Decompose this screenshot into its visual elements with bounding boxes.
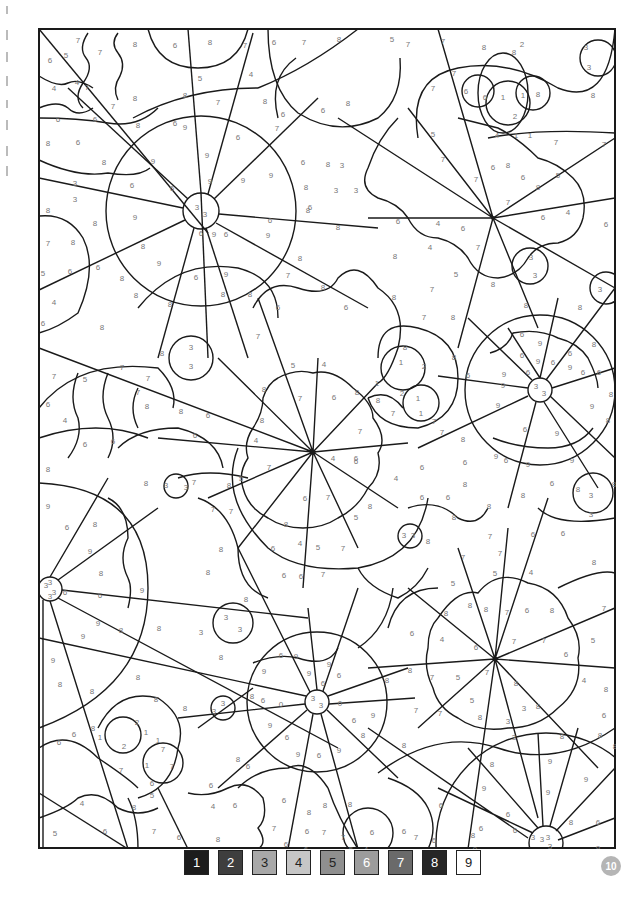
region-number: 4 [249, 70, 254, 79]
color-swatch-8[interactable]: 8 [422, 850, 447, 875]
region-number: 8 [46, 465, 51, 474]
region-number: 4 [566, 208, 571, 217]
region-number: 4 [75, 78, 80, 87]
region-number: 6 [98, 591, 103, 600]
region-number: 7 [286, 271, 291, 280]
region-number: 6 [103, 827, 108, 836]
region-number: 7 [414, 706, 419, 715]
region-number: 6 [352, 716, 357, 725]
region-number: 3 [411, 531, 416, 540]
color-swatch-6[interactable]: 6 [354, 850, 379, 875]
region-number: 8 [512, 48, 517, 57]
region-number: 4 [298, 539, 303, 548]
region-number: 9 [140, 586, 145, 595]
region-number: 8 [506, 161, 511, 170]
region-number: 6 [305, 827, 310, 836]
color-swatch-9[interactable]: 9 [456, 850, 481, 875]
region-number: 7 [136, 388, 141, 397]
region-number: 6 [72, 730, 77, 739]
region-number: 8 [120, 274, 125, 283]
region-number: 8 [361, 731, 366, 740]
region-number: 3 [340, 161, 345, 170]
region-number: 7 [52, 372, 57, 381]
region-number: 7 [341, 544, 346, 553]
region-number: 2 [422, 362, 427, 371]
swatch-number: 2 [227, 855, 234, 870]
region-number: 8 [262, 385, 267, 394]
region-number: 8 [219, 545, 224, 554]
region-number: 6 [236, 133, 241, 142]
region-number: 6 [96, 263, 101, 272]
color-swatch-4[interactable]: 4 [286, 850, 311, 875]
region-number: 7 [430, 285, 435, 294]
region-number: 8 [134, 291, 139, 300]
region-number: 6 [46, 400, 51, 409]
region-number: 6 [170, 184, 175, 193]
region-number: 6 [474, 643, 479, 652]
region-number: 4 [63, 416, 68, 425]
region-number: 7 [431, 84, 436, 93]
region-number: 8 [550, 606, 555, 615]
color-swatch-2[interactable]: 2 [218, 850, 243, 875]
region-number: 6 [525, 606, 530, 615]
region-number: 6 [285, 733, 290, 742]
region-number: 7 [76, 36, 81, 45]
region-number: 7 [498, 549, 503, 558]
region-number: 5 [451, 579, 456, 588]
region-number: 3 [533, 271, 538, 280]
region-number: 8 [444, 609, 449, 618]
region-number: 6 [224, 230, 229, 239]
color-swatch-3[interactable]: 3 [252, 850, 277, 875]
region-number: 4 [322, 360, 327, 369]
region-number: 7 [414, 833, 419, 842]
region-number: 8 [100, 323, 105, 332]
region-number: 8 [183, 704, 188, 713]
region-number: 3 [73, 179, 78, 188]
region-number: 6 [420, 463, 425, 472]
region-number: 8 [160, 349, 165, 358]
region-number: 7 [98, 48, 103, 57]
region-number: 6 [282, 571, 287, 580]
color-swatch-7[interactable]: 7 [388, 850, 413, 875]
region-number: 6 [597, 368, 602, 377]
region-number: 1 [419, 409, 424, 418]
region-number: 6 [520, 351, 525, 360]
region-number: 8 [592, 558, 597, 567]
region-number: 1 [521, 91, 526, 100]
region-number: 1 [528, 131, 533, 140]
region-number: 6 [282, 796, 287, 805]
region-number: 2 [513, 112, 518, 121]
region-number: 6 [268, 216, 273, 225]
color-swatch-5[interactable]: 5 [320, 850, 345, 875]
hub-number: 3 [542, 389, 547, 398]
region-number: 6 [111, 437, 116, 446]
region-number: 9 [51, 656, 56, 665]
region-number: 1 [144, 728, 149, 737]
region-number: 6 [193, 431, 198, 440]
region-number: 7 [485, 668, 490, 677]
region-number: 4 [529, 568, 534, 577]
hub-number: 3 [540, 835, 545, 844]
region-number: 8 [145, 402, 150, 411]
swatch-number: 4 [295, 855, 302, 870]
region-number: 6 [173, 119, 178, 128]
region-number: 5 [316, 543, 321, 552]
region-number: 7 [474, 175, 479, 184]
region-number: 6 [321, 106, 326, 115]
region-number: 6 [177, 833, 182, 842]
region-number: 6 [602, 711, 607, 720]
region-number: 7 [441, 37, 446, 46]
region-number: 9 [570, 456, 575, 465]
color-swatch-1[interactable]: 1 [184, 850, 209, 875]
region-number: 6 [206, 411, 211, 420]
region-number: 5 [150, 791, 155, 800]
region-number: 7 [602, 604, 607, 613]
region-number: 6 [301, 158, 306, 167]
region-number: 1 [416, 394, 421, 403]
region-number: 1 [399, 358, 404, 367]
region-number: 7 [554, 138, 559, 147]
region-number: 6 [432, 836, 437, 845]
region-number: 6 [446, 493, 451, 502]
region-number: 3 [354, 186, 359, 195]
region-number: 8 [46, 206, 51, 215]
